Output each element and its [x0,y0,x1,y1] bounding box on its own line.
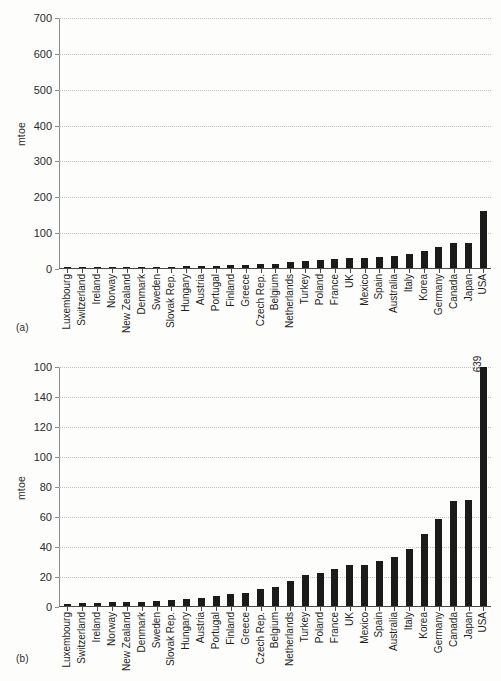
x-axis-tick [179,269,194,273]
bar-cell [223,367,238,606]
x-axis-tick [105,269,120,273]
x-axis-category-label: Canada [449,612,459,647]
x-axis-label-cell: New Zealand [119,612,134,681]
x-axis-category-label: Portugal [211,274,221,311]
x-axis-category-label: Hungary [181,274,191,312]
x-axis-tick [90,269,105,273]
bar-cell [149,18,164,268]
y-axis-tick [55,397,59,398]
x-axis-tick [149,269,164,273]
x-axis-label-cell: Mexico [357,612,372,681]
bar [198,598,205,606]
x-axis-label-cell: USA [476,612,491,681]
bar [242,265,249,268]
x-axis-category-label: New Zealand [122,612,132,671]
y-axis-tick-label: 0 [46,264,52,275]
x-axis-label-cell: Norway [105,274,120,344]
bar [64,267,71,268]
x-axis-label-cell: UK [342,612,357,681]
x-axis-label-cell: Portugal [209,274,224,344]
x-axis-label-cell: Australia [387,612,402,681]
x-axis-labels-b: LuxembourgSwitzerlandIrelandNorwayNew Ze… [60,612,491,681]
x-axis-tick [75,607,90,611]
bar [302,575,309,606]
x-axis-category-label: Norway [107,612,117,646]
x-axis-tick [209,269,224,273]
bar-cell [60,18,75,268]
x-axis-tick [134,607,149,611]
x-axis-tick [283,607,298,611]
x-axis-tick [75,269,90,273]
bar-cell [342,367,357,606]
plot-area-a: mtoe 0100200300400500600700 LuxembourgSw… [59,18,491,269]
y-axis-tick-label: 0 [46,602,52,613]
figure-page: mtoe 0100200300400500600700 LuxembourgSw… [0,0,501,681]
bar [227,594,234,606]
bar [465,243,472,268]
y-axis-tick-label: 500 [34,84,52,95]
x-axis-tick [238,269,253,273]
bar-cell [253,367,268,606]
bar-cell [164,367,179,606]
bar-cell [179,367,194,606]
x-axis-category-label: UK [345,612,355,626]
bar-cell [461,18,476,268]
x-axis-category-label: Germany [434,274,444,315]
x-axis-tick [402,269,417,273]
x-axis-tick [223,607,238,611]
y-axis-tick-label: 700 [34,13,52,24]
x-axis-category-label: Mexico [360,612,370,644]
bar-cell [134,367,149,606]
bar [183,599,190,606]
x-ticks-b [60,607,491,611]
bar-cell [134,18,149,268]
bar [227,265,234,268]
bar [421,534,428,606]
x-axis-category-label: Belgium [270,612,280,648]
x-axis-label-cell: Japan [461,274,476,344]
x-axis-tick [268,607,283,611]
x-axis-label-cell: Slovak Rep. [164,274,179,344]
bar-cell [372,18,387,268]
x-axis-label-cell: Australia [387,274,402,344]
x-axis-tick [342,607,357,611]
bar-cell [90,18,105,268]
x-axis-tick [253,607,268,611]
bar [287,581,294,606]
chart-panel-b: mtoe 020406080100120140100 639 Luxembour… [0,340,501,681]
bar [435,247,442,268]
bar-cell [119,367,134,606]
y-axis-tick-label: 100 [34,452,52,463]
x-axis-tick [327,269,342,273]
x-axis-label-cell: Spain [372,274,387,344]
bar-cell [149,367,164,606]
bar [421,251,428,268]
bar-cell [105,367,120,606]
x-axis-category-label: Switzerland [77,612,87,664]
x-axis-tick [417,269,432,273]
panel-label-a: (a) [16,322,29,333]
x-axis-label-cell: Czech Rep. [253,274,268,344]
x-axis-tick [194,269,209,273]
x-axis-tick [149,607,164,611]
x-axis-category-label: Mexico [360,274,370,306]
y-axis-tick [55,367,59,368]
x-axis-category-label: Denmark [137,274,147,315]
x-axis-tick [164,607,179,611]
x-axis-label-cell: Czech Rep. [253,612,268,681]
x-axis-tick [446,269,461,273]
x-axis-category-label: Japan [464,612,474,639]
x-axis-label-cell: France [327,612,342,681]
x-axis-label-cell: Ireland [90,612,105,681]
bar-cell [446,18,461,268]
y-axis-tick-label: 20 [40,572,52,583]
bar-cell [238,18,253,268]
x-axis-label-cell: Luxembourg [60,612,75,681]
bar-cell [327,367,342,606]
y-axis-tick [55,547,59,548]
x-axis-label-cell: Spain [372,612,387,681]
x-axis-category-label: Spain [374,274,384,300]
y-axis-tick [55,577,59,578]
bar-cell [342,18,357,268]
x-axis-category-label: Spain [374,612,384,638]
